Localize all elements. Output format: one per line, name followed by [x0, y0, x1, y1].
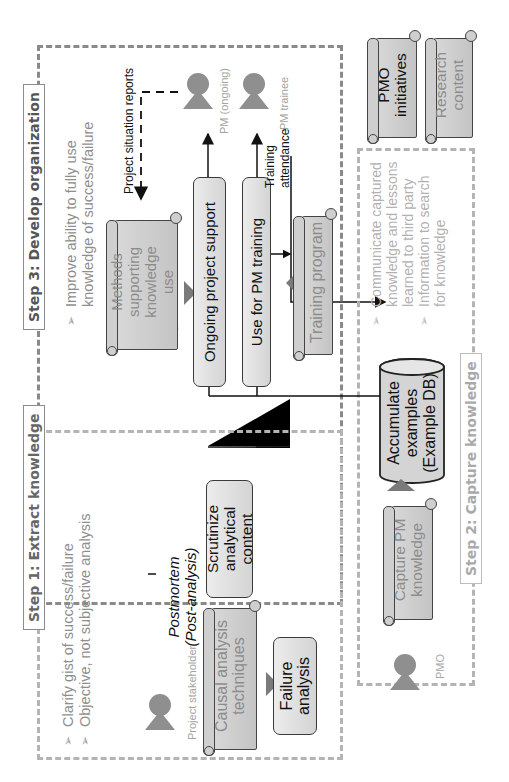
- research-content-scroll: Research content: [425, 32, 473, 138]
- knowledge-management-diagram: Step 3: Develop organization ➢Improve ab…: [0, 0, 509, 782]
- diagram-frame: Step 3: Develop organization ➢Improve ab…: [0, 0, 509, 782]
- methods-scroll: Methods supporting knowledge use: [106, 214, 178, 350]
